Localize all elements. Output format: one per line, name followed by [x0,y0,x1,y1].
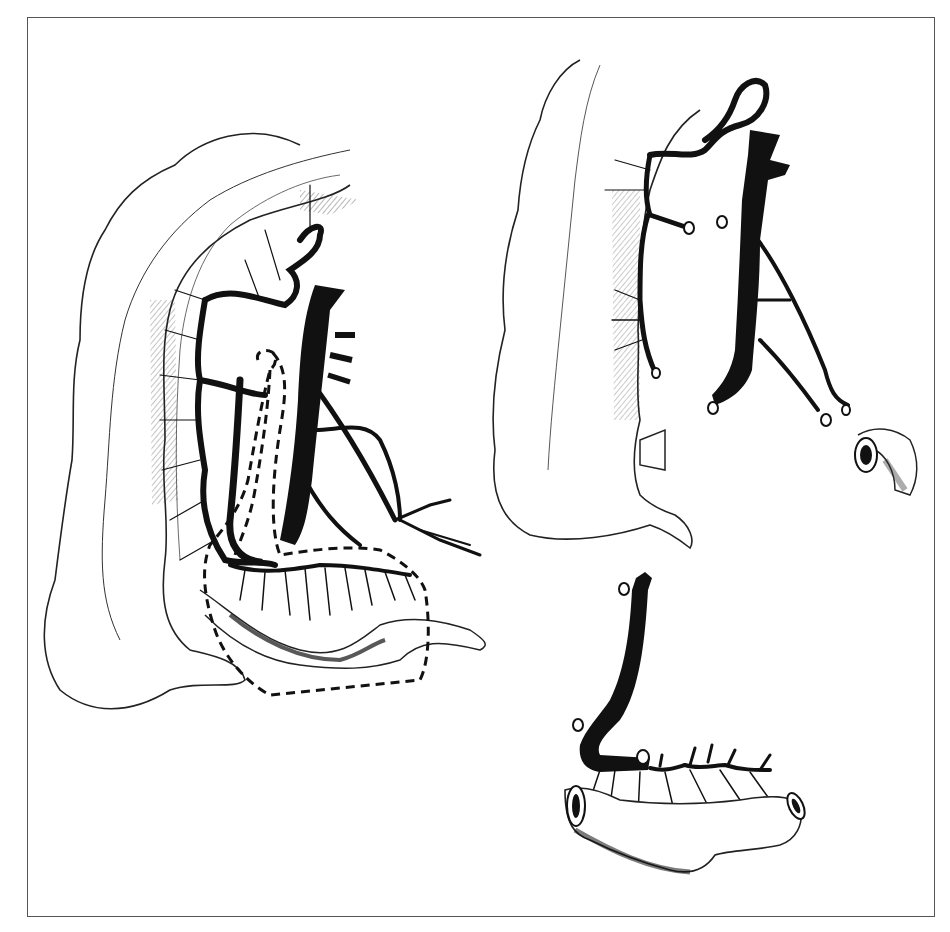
transected-bowel-end [855,429,917,495]
divided-main-artery-right [712,130,790,405]
left-colon-panel [44,134,485,709]
top-right-colon-panel [493,60,917,548]
isolated-bowel-segment [565,788,801,872]
anatomical-figure [0,0,950,932]
bottom-right-pedicle-panel [565,572,808,872]
small-bowel-left [200,590,485,668]
colon-outline-right [493,60,700,548]
pedicle-artery [580,572,652,772]
